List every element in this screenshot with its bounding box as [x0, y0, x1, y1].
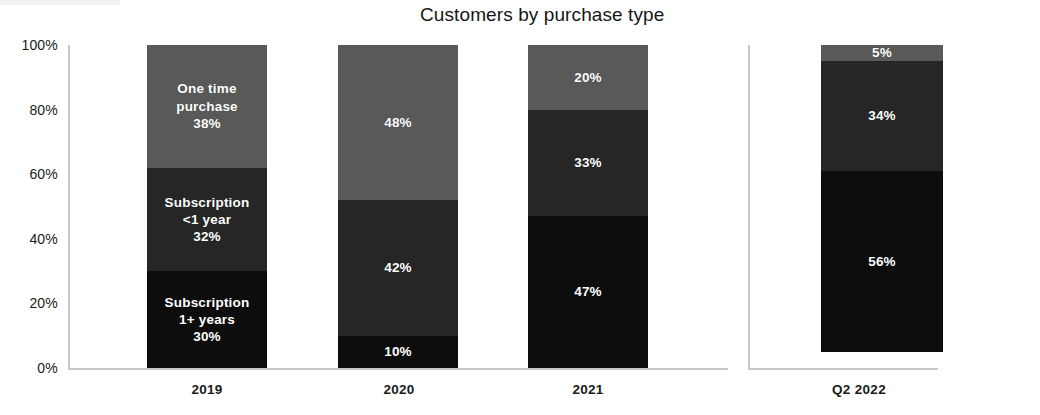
bar-segment-subscription-1-year[interactable]: 34% — [821, 61, 943, 171]
bar-segment-value: 48% — [384, 114, 412, 131]
bar-segment-value: 56% — [868, 253, 896, 270]
bar-segment-subscription-1-year[interactable]: 33% — [528, 110, 648, 217]
bar-segment-name-line2: <1 year — [165, 211, 250, 228]
bar-segment-one-time-purchase[interactable]: One timepurchase38% — [147, 45, 267, 168]
bar-segment-one-time-purchase[interactable]: 48% — [338, 45, 458, 200]
bar-segment-value: 20% — [574, 69, 602, 86]
bar-segment-label: 5% — [868, 44, 896, 61]
bar-segment-value: 10% — [384, 343, 412, 360]
bar-q2-2022[interactable]: 5%34%56% — [821, 45, 943, 368]
bar-segment-label: 33% — [570, 154, 606, 171]
bar-segment-name-line2: 1+ years — [165, 311, 250, 328]
chart-title: Customers by purchase type — [420, 4, 840, 26]
y-axis-tick-20: 20% — [2, 295, 58, 311]
bar-segment-value: 38% — [176, 115, 238, 132]
y-axis-tick-60: 60% — [2, 166, 58, 182]
bar-segment-label: 34% — [864, 107, 900, 124]
x-axis-tick-q2-2022: Q2 2022 — [779, 382, 939, 397]
bar-segment-value: 32% — [165, 228, 250, 245]
plot-area-main: One timepurchase38%Subscription<1 year32… — [68, 45, 728, 368]
bar-segment-label: 20% — [570, 69, 606, 86]
bar-segment-subscription-1-year[interactable]: Subscription<1 year32% — [147, 168, 267, 271]
y-axis-tick-0: 0% — [2, 360, 58, 376]
y-axis-line — [68, 45, 70, 368]
scan-artifact — [0, 0, 120, 5]
bar-segment-name-line2: purchase — [176, 98, 238, 115]
bar-segment-name-line1: Subscription — [165, 294, 250, 311]
bar-segment-label: 56% — [864, 253, 900, 270]
bar-segment-value: 33% — [574, 154, 602, 171]
bar-segment-value: 47% — [574, 283, 602, 300]
bar-segment-label: Subscription<1 year32% — [161, 194, 254, 246]
bar-segment-name-line1: One time — [176, 80, 238, 97]
bar-segment-subscription-1-year[interactable]: 42% — [338, 200, 458, 336]
bar-segment-name-line1: Subscription — [165, 194, 250, 211]
bar-segment-subscription-1-years[interactable]: 56% — [821, 171, 943, 352]
bar-segment-one-time-purchase[interactable]: 20% — [528, 45, 648, 110]
bar-segment-label: One timepurchase38% — [172, 80, 242, 132]
y-axis-tick-80: 80% — [2, 102, 58, 118]
bar-2019[interactable]: One timepurchase38%Subscription<1 year32… — [147, 45, 267, 368]
x-axis-line-main — [68, 368, 728, 370]
bar-segment-value: 30% — [165, 328, 250, 345]
y-axis-tick-40: 40% — [2, 231, 58, 247]
bar-segment-label: Subscription1+ years30% — [161, 294, 254, 346]
bar-segment-subscription-1-years[interactable]: Subscription1+ years30% — [147, 271, 267, 368]
x-axis-tick-2019: 2019 — [127, 382, 287, 397]
stacked-bar-chart: Customers by purchase type 100%80%60%40%… — [0, 0, 1040, 415]
bar-segment-value: 34% — [868, 107, 896, 124]
bar-segment-label: 10% — [380, 343, 416, 360]
bar-segment-one-time-purchase[interactable]: 5% — [821, 45, 943, 61]
bar-2021[interactable]: 20%33%47% — [528, 45, 648, 368]
x-axis-line-side — [748, 368, 938, 370]
x-axis-tick-2020: 2020 — [319, 382, 479, 397]
bar-segment-value: 5% — [872, 44, 892, 61]
bar-segment-subscription-1-years[interactable]: 47% — [528, 216, 648, 368]
bar-segment-label: 48% — [380, 114, 416, 131]
y-axis-tick-100: 100% — [2, 37, 58, 53]
bar-segment-label: 42% — [380, 259, 416, 276]
bar-segment-subscription-1-years[interactable]: 10% — [338, 336, 458, 368]
bar-segment-label: 47% — [570, 283, 606, 300]
x-axis-tick-2021: 2021 — [508, 382, 668, 397]
bar-segment-value: 42% — [384, 259, 412, 276]
plot-area-side: 5%34%56% — [748, 45, 938, 368]
bar-2020[interactable]: 48%42%10% — [338, 45, 458, 368]
